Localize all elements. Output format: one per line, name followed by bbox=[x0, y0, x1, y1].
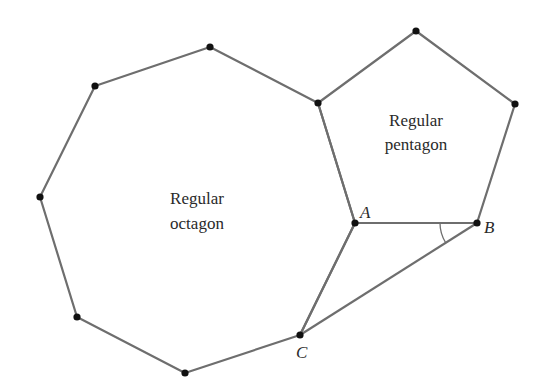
vertex-dot bbox=[314, 99, 321, 106]
vertex-dot bbox=[36, 193, 43, 200]
vertex-dot bbox=[181, 369, 188, 376]
point-label-b: B bbox=[484, 218, 495, 237]
vertex-dot bbox=[511, 100, 518, 107]
diagram-canvas: Regular octagon Regular pentagon A B C bbox=[0, 0, 549, 387]
pentagon-label-line1: Regular bbox=[389, 111, 443, 130]
polygon-edges bbox=[40, 31, 515, 373]
vertex-dot bbox=[73, 313, 80, 320]
vertex-dot bbox=[473, 219, 480, 226]
vertex-dot bbox=[91, 82, 98, 89]
point-label-c: C bbox=[296, 343, 308, 362]
vertex-dot bbox=[206, 43, 213, 50]
point-label-a: A bbox=[359, 203, 371, 222]
polygon-vertices bbox=[36, 27, 518, 376]
vertex-dot bbox=[412, 27, 419, 34]
vertex-dot bbox=[351, 219, 358, 226]
octagon-outline bbox=[40, 47, 355, 373]
octagon-label-line2: octagon bbox=[170, 214, 224, 233]
angle-arc-b bbox=[440, 223, 446, 243]
octagon-label-line1: Regular bbox=[170, 189, 224, 208]
vertex-dot bbox=[296, 331, 303, 338]
pentagon-label-line2: pentagon bbox=[385, 135, 448, 154]
